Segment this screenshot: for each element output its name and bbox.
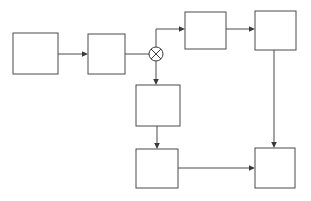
junction-cross-circle-icon[interactable]: [149, 47, 163, 61]
node-box-1[interactable]: [13, 33, 58, 74]
edge-box5-box6: [154, 126, 160, 149]
diagram-canvas: [0, 0, 311, 201]
arrow-head-icon: [82, 51, 88, 57]
node-box-5[interactable]: [136, 85, 180, 126]
block-flow-diagram: [0, 0, 311, 201]
edge-junction1-box3: [156, 26, 185, 47]
arrow-head-icon: [249, 26, 255, 32]
edge-box6-box7: [178, 165, 255, 171]
node-box-2[interactable]: [88, 34, 125, 74]
arrow-head-icon: [179, 26, 185, 32]
edge-box3-box4: [226, 26, 255, 32]
node-box-6[interactable]: [136, 149, 178, 188]
node-box-7[interactable]: [255, 148, 295, 188]
edge-box4-box7: [271, 50, 277, 148]
arrow-head-icon: [271, 142, 277, 148]
edge-junction1-box5: [153, 61, 159, 85]
edge-box1-box2: [58, 51, 88, 57]
arrow-head-icon: [154, 143, 160, 149]
node-box-4[interactable]: [255, 11, 296, 50]
node-box-3[interactable]: [185, 12, 226, 49]
arrow-head-icon: [249, 165, 255, 171]
arrow-head-icon: [153, 79, 159, 85]
